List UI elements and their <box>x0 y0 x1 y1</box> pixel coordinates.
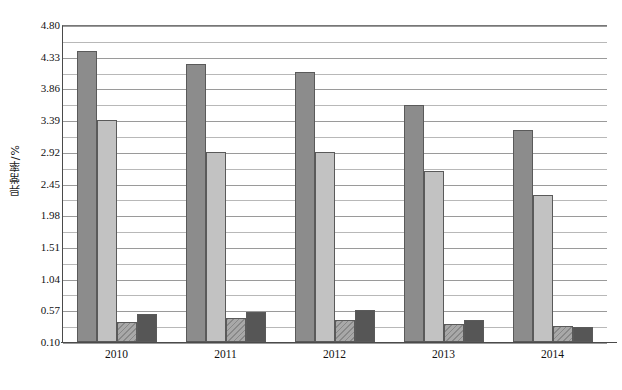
x-tick-label: 2010 <box>62 348 171 372</box>
bar[interactable] <box>513 130 533 342</box>
bar[interactable] <box>137 314 157 342</box>
y-tick-label: 1.98 <box>26 209 60 221</box>
x-axis-line <box>61 342 617 344</box>
y-tick-label: 0.57 <box>26 304 60 316</box>
plot-area <box>62 25 607 342</box>
bar[interactable] <box>553 326 573 342</box>
bar[interactable] <box>206 152 226 342</box>
bar-group <box>172 26 281 342</box>
y-tick-label: 4.33 <box>26 51 60 63</box>
bar[interactable] <box>77 51 97 342</box>
bar[interactable] <box>117 322 137 342</box>
bar[interactable] <box>295 72 315 342</box>
x-axis-tick-labels: 20102011201220132014 <box>62 348 607 372</box>
x-tick-label: 2013 <box>389 348 498 372</box>
bar[interactable] <box>246 312 266 342</box>
bar[interactable] <box>97 120 117 342</box>
bar-groups <box>63 26 607 342</box>
y-tick-label: 1.04 <box>26 273 60 285</box>
x-tick-label: 2011 <box>171 348 280 372</box>
chart-root: 异常率/% 0.100.571.041.511.982.452.923.393.… <box>0 0 622 390</box>
y-tick-label: 1.51 <box>26 241 60 253</box>
bar[interactable] <box>444 324 464 342</box>
bar[interactable] <box>315 152 335 342</box>
bar[interactable] <box>424 171 444 342</box>
gridline-major <box>63 343 607 344</box>
y-axis-title-text: 异常率/% <box>8 144 24 196</box>
bar[interactable] <box>464 320 484 342</box>
y-tick-label: 4.80 <box>26 19 60 31</box>
bar-group <box>281 26 390 342</box>
y-axis-tick-labels: 0.100.571.041.511.982.452.923.393.864.33… <box>26 0 60 390</box>
y-tick-label: 2.45 <box>26 178 60 190</box>
bar-group <box>389 26 498 342</box>
y-tick-label: 2.92 <box>26 146 60 158</box>
y-tick-label: 3.39 <box>26 114 60 126</box>
bar[interactable] <box>404 105 424 342</box>
x-tick-label: 2012 <box>280 348 389 372</box>
y-tick-label: 3.86 <box>26 82 60 94</box>
bar[interactable] <box>355 310 375 342</box>
bar[interactable] <box>573 327 593 343</box>
x-tick-label: 2014 <box>498 348 607 372</box>
bar[interactable] <box>533 195 553 342</box>
bar[interactable] <box>335 320 355 342</box>
bar[interactable] <box>226 318 246 342</box>
bar[interactable] <box>186 64 206 342</box>
bar-group <box>498 26 607 342</box>
bar-group <box>63 26 172 342</box>
y-tick-label: 0.10 <box>26 336 60 348</box>
